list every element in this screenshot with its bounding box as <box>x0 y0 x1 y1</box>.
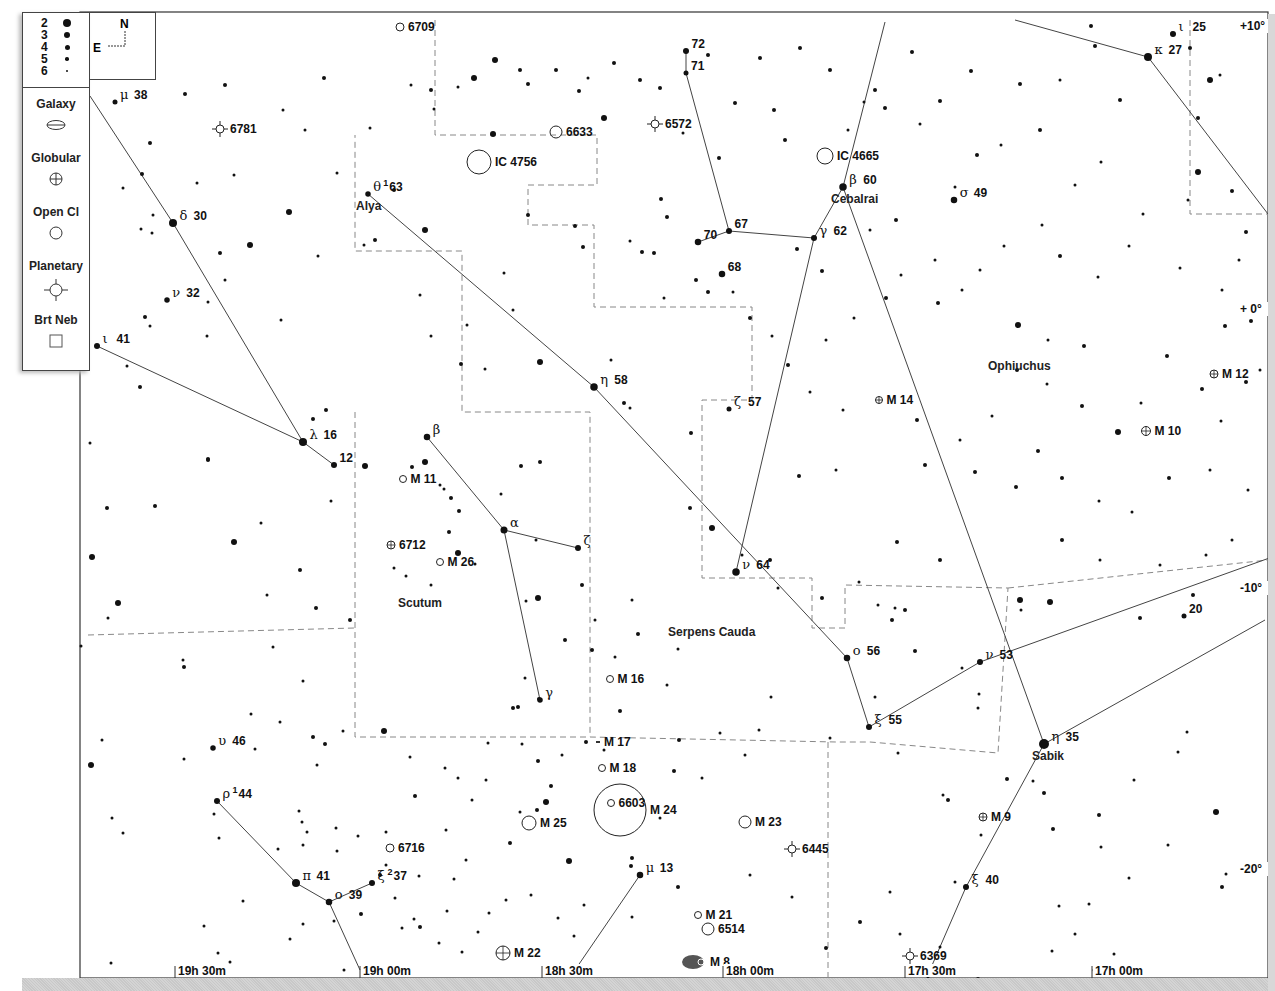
star-icon <box>543 799 549 805</box>
bayer-letter: ι <box>103 331 108 346</box>
compass: N E <box>89 12 156 80</box>
star-icon <box>890 618 894 622</box>
star-icon <box>213 813 216 816</box>
star-icon <box>182 665 186 669</box>
star-icon <box>629 240 632 243</box>
star-icon <box>1220 885 1224 889</box>
star-icon <box>229 961 232 964</box>
star-icon <box>1032 780 1035 783</box>
globular-icon <box>387 541 395 549</box>
galaxy-icon <box>23 117 89 135</box>
star-icon <box>306 831 309 834</box>
star-icon <box>1144 53 1152 61</box>
dso-label: 6712 <box>399 538 426 552</box>
star-icon <box>526 82 530 86</box>
star-icon <box>629 864 633 868</box>
bayer-letter: ρ <box>223 786 231 801</box>
flamsteed-number: 55 <box>889 713 903 727</box>
star-icon <box>1093 44 1097 48</box>
star-icon <box>444 767 447 770</box>
dso-label: M 24 <box>650 803 677 817</box>
star-icon <box>658 86 662 90</box>
bayer-letter: ν <box>742 557 750 572</box>
star-icon <box>538 460 542 464</box>
star-icon <box>584 740 588 744</box>
star-icon <box>1097 813 1101 817</box>
flamsteed-number: 35 <box>1066 730 1080 744</box>
dso-label: M 25 <box>540 816 567 830</box>
star-icon <box>164 297 170 303</box>
star-icon <box>732 291 735 294</box>
star-icon <box>304 129 307 132</box>
star-dot-icon <box>64 32 71 39</box>
star-icon <box>973 470 977 474</box>
star-icon <box>1249 319 1253 323</box>
star-icon <box>665 215 669 219</box>
star-icon <box>373 238 377 242</box>
constellation-name: Ophiuchus <box>988 359 1051 373</box>
star-icon <box>1113 953 1116 956</box>
star-icon <box>1058 254 1062 258</box>
planetary-icon <box>23 279 89 305</box>
star-icon <box>847 129 850 132</box>
star-icon <box>783 138 787 142</box>
star-icon <box>866 724 872 730</box>
star-icon <box>825 339 828 342</box>
star-icon <box>590 648 594 652</box>
star-icon <box>951 197 958 204</box>
star-icon <box>636 632 640 636</box>
star-icon <box>149 325 152 328</box>
star-icon <box>786 363 790 367</box>
star-icon <box>744 754 747 757</box>
star-icon <box>508 841 512 845</box>
bayer-letter: ο <box>335 887 343 902</box>
star-icon <box>289 938 292 941</box>
star-icon <box>1231 539 1234 542</box>
dso-label: M 23 <box>755 815 782 829</box>
dso-label: 6572 <box>665 117 692 131</box>
star-icon <box>732 568 740 576</box>
star-icon <box>1209 469 1212 472</box>
star-icon <box>961 289 964 292</box>
star-icon <box>169 219 177 227</box>
star-icon <box>207 301 210 304</box>
star-icon <box>233 174 236 177</box>
star-icon <box>824 946 828 950</box>
legend-label-globular: Globular <box>23 151 89 165</box>
star-icon <box>424 434 431 441</box>
star-icon <box>575 545 581 551</box>
star-icon <box>439 484 442 487</box>
star-icon <box>107 617 110 620</box>
star-icon <box>94 343 100 349</box>
star-icon <box>977 707 980 710</box>
star-icon <box>1188 46 1192 50</box>
star-icon <box>1247 489 1250 492</box>
dso-m-22: M 22 <box>496 946 541 960</box>
star-icon <box>554 68 558 72</box>
star-icon <box>1140 402 1143 405</box>
bright-nebula-lagoon-icon <box>682 955 704 969</box>
star-icon <box>280 319 283 322</box>
star-icon <box>148 141 152 145</box>
star-icon <box>894 607 897 610</box>
legend-label-planetary: Planetary <box>23 259 89 273</box>
star-icon <box>1186 731 1189 734</box>
star-icon <box>726 228 732 234</box>
dso-label: M 9 <box>991 810 1011 824</box>
bayer-letter: γ <box>820 223 828 238</box>
star-icon <box>938 99 942 103</box>
star-icon <box>445 829 448 832</box>
star-icon <box>1047 339 1050 342</box>
star-icon <box>601 115 607 121</box>
flamsteed-number: 32 <box>186 286 200 300</box>
flamsteed-number: 39 <box>349 888 363 902</box>
star-icon <box>677 648 680 651</box>
star-icon <box>873 88 877 92</box>
star-icon <box>525 600 528 603</box>
bayer-letter: υ <box>218 733 226 748</box>
star-icon <box>519 811 522 814</box>
star-icon <box>1015 322 1021 328</box>
star-icon <box>689 431 693 435</box>
star-icon <box>381 728 387 734</box>
star-icon <box>1042 791 1046 795</box>
